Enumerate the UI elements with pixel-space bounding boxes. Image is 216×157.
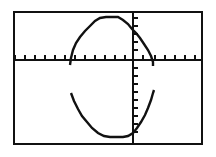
curve-lower-valley [71,90,154,137]
graph-plot-area [0,0,216,157]
calculator-screenshot [0,0,216,157]
curve-upper-arch [70,17,153,66]
x-axis-group [15,55,201,60]
